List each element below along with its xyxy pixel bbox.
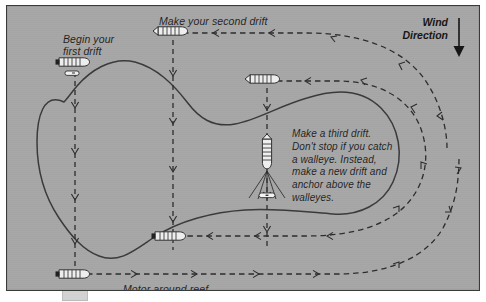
- anchored-boat-icon: [249, 134, 285, 200]
- drift-sock-first-drift: [65, 71, 79, 75]
- diagram-frame: Begin your first drift Make your second …: [6, 5, 480, 291]
- label-make-second-drift: Make your second drift: [159, 15, 267, 27]
- lure-icon: [259, 193, 275, 198]
- label-motor-around-reef: Motor around reef: [123, 283, 208, 291]
- page-bottom-tab: [62, 291, 88, 301]
- boat-icon-fourth-drift: [152, 232, 186, 240]
- boat-icon-second-drift: [153, 27, 188, 35]
- boat-icon-third-drift: [245, 75, 280, 83]
- label-begin-first-drift: Begin your first drift: [63, 33, 114, 58]
- figure-page: Begin your first drift Make your second …: [0, 0, 486, 302]
- boat-icon-motor-around-reef: [56, 270, 90, 278]
- drift-path-1: [71, 72, 78, 278]
- drift-path-2: [169, 40, 176, 250]
- return-path-lower: [87, 156, 461, 278]
- boat-icon-first-drift: [56, 58, 90, 66]
- label-wind-direction: Wind Direction: [402, 16, 448, 42]
- label-make-third-drift: Make a third drift. Don't stop if you ca…: [292, 128, 392, 205]
- down-arrow-icon: [454, 18, 465, 57]
